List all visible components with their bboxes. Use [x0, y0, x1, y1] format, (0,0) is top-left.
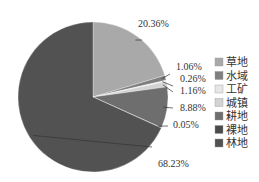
legend-swatch [215, 112, 223, 120]
legend-label: 草地 [226, 56, 248, 69]
legend-swatch [215, 126, 223, 134]
slice-label: 8.88% [180, 102, 206, 113]
pie-slices [18, 22, 168, 172]
slice-label: 1.06% [176, 61, 202, 72]
slice-label: 0.05% [173, 119, 199, 130]
legend-label: 城镇 [226, 96, 248, 110]
slice-label: 0.26% [180, 73, 206, 84]
legend-label: 裸地 [226, 123, 248, 137]
legend-swatch [215, 58, 223, 66]
legend-swatch [215, 85, 223, 93]
legend-label: 耕地 [226, 109, 248, 123]
legend-swatch [215, 72, 223, 80]
slice-label: 68.23% [158, 158, 189, 169]
legend: 草地水域工矿城镇耕地裸地林地 [215, 56, 248, 150]
legend-label: 水域 [226, 70, 248, 83]
legend-swatch [215, 99, 223, 107]
legend-label: 工矿 [226, 83, 248, 96]
slice-label: 1.16% [180, 85, 206, 96]
pie-chart: 20.36%1.06%0.26%1.16%8.88%0.05%68.23% 草地… [0, 0, 259, 182]
slice-label: 20.36% [138, 18, 169, 29]
legend-swatch [215, 139, 223, 147]
legend-label: 林地 [226, 136, 248, 150]
